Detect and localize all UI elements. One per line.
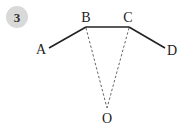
problem-number-badge: 3: [6, 6, 28, 28]
label-o: O: [102, 111, 112, 125]
label-b: B: [81, 10, 90, 25]
segment-bo-dashed: [86, 28, 107, 108]
badge-number: 3: [14, 10, 21, 25]
segment-co-dashed: [107, 28, 129, 108]
segment-cd: [129, 27, 165, 48]
label-a: A: [36, 42, 47, 57]
geometry-diagram: 3 A B C D O: [0, 0, 187, 125]
segment-ab: [49, 27, 86, 48]
label-c: C: [123, 10, 132, 25]
label-d: D: [167, 43, 177, 58]
